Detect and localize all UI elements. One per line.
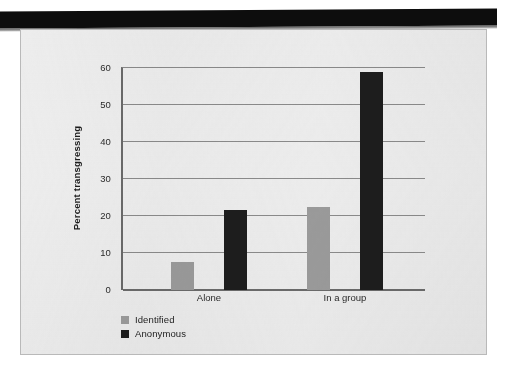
bar-alone-anonymous	[224, 210, 247, 290]
y-tick-label-60: 60	[100, 62, 111, 73]
y-tick-label-40: 40	[100, 136, 111, 147]
legend-swatch-identified	[121, 316, 129, 324]
plot-area: 60 50 40 30 20 10 0 Alone In a group	[121, 67, 425, 290]
y-tick-label-10: 10	[100, 247, 111, 258]
x-tick-label-in-a-group: In a group	[324, 292, 367, 303]
y-axis-title: Percent transgressing	[69, 67, 83, 289]
bar-in-a-group-identified	[307, 207, 330, 290]
x-tick-label-alone: Alone	[197, 292, 221, 303]
legend-swatch-anonymous	[121, 330, 129, 338]
y-tick-label-0: 0	[106, 284, 111, 295]
legend-item-identified: Identified	[121, 313, 186, 326]
bar-alone-identified	[171, 262, 194, 290]
legend-label-identified: Identified	[135, 314, 175, 325]
legend-item-anonymous: Anonymous	[121, 327, 186, 340]
y-tick-label-50: 50	[100, 99, 111, 110]
bar-in-a-group-anonymous	[360, 72, 383, 290]
y-tick-label-30: 30	[100, 173, 111, 184]
figure-screenshot: { "chart_data": { "type": "bar", "title"…	[0, 0, 509, 371]
legend: Identified Anonymous	[121, 313, 186, 341]
y-tick-label-20: 20	[100, 210, 111, 221]
legend-label-anonymous: Anonymous	[135, 328, 186, 339]
gridline-60: 60	[123, 67, 425, 68]
chart-panel: Percent transgressing 60 50 40 30 20 10 …	[20, 29, 487, 355]
